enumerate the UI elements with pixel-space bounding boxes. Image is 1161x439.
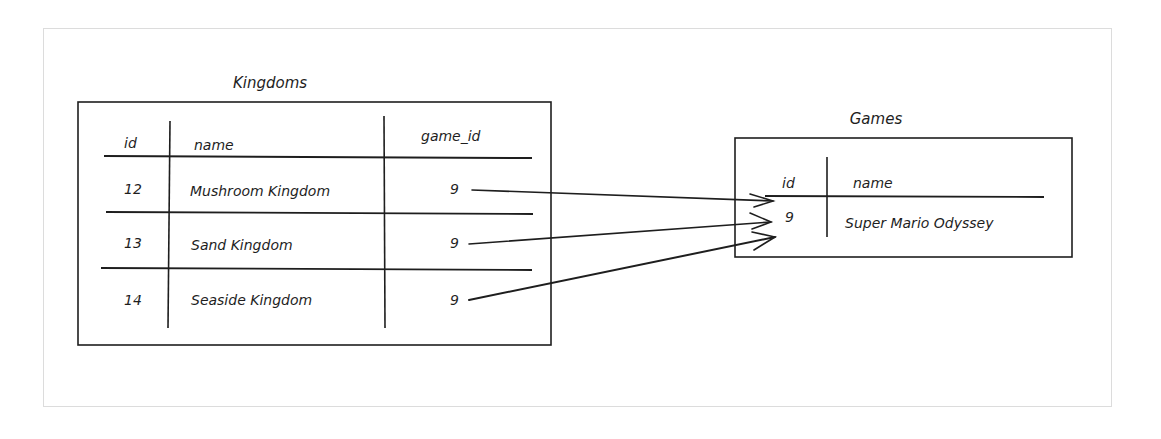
games-cell-name: Super Mario Odyssey <box>845 215 994 231</box>
kingdoms-cell-game-id: 9 <box>450 292 459 308</box>
kingdoms-cell-game-id: 9 <box>450 235 459 251</box>
kingdoms-row[interactable]: 12 Mushroom Kingdom 9 <box>124 181 459 199</box>
games-header-line <box>765 196 1044 197</box>
kingdoms-header-name: name <box>194 137 234 153</box>
kingdoms-header-game-id: game_id <box>421 128 481 144</box>
kingdoms-cell-id: 14 <box>124 292 142 308</box>
kingdoms-row[interactable]: 13 Sand Kingdom 9 <box>124 235 459 253</box>
games-cell-id: 9 <box>785 209 794 225</box>
kingdoms-cell-id: 13 <box>124 235 142 251</box>
kingdoms-cell-name: Sand Kingdom <box>191 237 293 253</box>
games-header-id: id <box>782 175 795 191</box>
kingdoms-row[interactable]: 14 Seaside Kingdom 9 <box>124 292 459 308</box>
kingdoms-col-divider-1 <box>168 121 170 328</box>
arrow-mushroom-to-game <box>472 190 773 207</box>
kingdoms-col-divider-2 <box>384 116 385 328</box>
kingdoms-header-id: id <box>124 135 137 151</box>
games-header-name: name <box>853 175 893 191</box>
games-row[interactable]: 9 Super Mario Odyssey <box>785 209 994 231</box>
arrowhead-icon <box>750 213 771 229</box>
kingdoms-row-line-2 <box>101 268 532 270</box>
relationship-arrows <box>469 190 775 300</box>
kingdoms-cell-name: Mushroom Kingdom <box>190 183 330 199</box>
arrow-seaside-to-game <box>469 232 775 300</box>
games-title: Games <box>850 110 903 128</box>
kingdoms-cell-name: Seaside Kingdom <box>191 292 312 308</box>
kingdoms-table[interactable]: Kingdoms id name game_id 12 Mushroom Kin… <box>78 74 551 345</box>
er-diagram: Kingdoms id name game_id 12 Mushroom Kin… <box>0 0 1161 439</box>
arrow-sand-to-game <box>469 213 771 244</box>
kingdoms-header-line <box>104 156 532 158</box>
kingdoms-row-line-1 <box>106 212 533 214</box>
games-table[interactable]: Games id name 9 Super Mario Odyssey <box>735 110 1072 257</box>
kingdoms-cell-id: 12 <box>124 181 142 197</box>
kingdoms-cell-game-id: 9 <box>450 181 459 197</box>
kingdoms-title: Kingdoms <box>233 74 307 92</box>
